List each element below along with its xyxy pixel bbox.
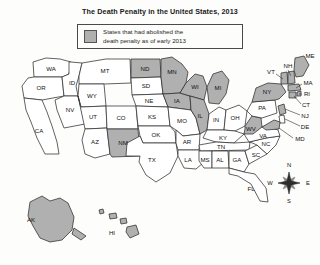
state-label-NC: NC [262, 140, 271, 147]
state-NH[interactable] [288, 71, 295, 84]
state-HI-2[interactable] [109, 213, 117, 219]
page-title: The Death Penalty in the United States, … [0, 7, 320, 16]
state-label-RI: RI [304, 90, 310, 97]
map-svg: WA OR CA ID NV MT WY UT AZ CO NM ND SD N… [0, 50, 320, 265]
state-NJ[interactable] [278, 104, 286, 115]
state-label-NE: NE [145, 97, 153, 104]
state-label-MN: MN [167, 68, 176, 75]
state-label-MA: MA [303, 79, 313, 86]
state-RI[interactable] [297, 91, 301, 96]
state-label-MO: MO [177, 117, 187, 124]
state-label-OK: OK [152, 131, 161, 138]
state-label-KY: KY [219, 134, 227, 141]
state-label-WI: WI [191, 83, 199, 90]
state-AK[interactable] [28, 196, 86, 242]
us-map: WA OR CA ID NV MT WY UT AZ CO NM ND SD N… [0, 50, 320, 265]
state-label-IL: IL [197, 112, 203, 119]
state-MA[interactable] [288, 84, 301, 91]
state-label-WY: WY [87, 92, 97, 99]
state-label-VA: VA [259, 132, 268, 139]
state-label-IN: IN [213, 116, 219, 123]
state-MD[interactable] [262, 120, 280, 130]
compass-rose: N S E W [267, 162, 310, 204]
state-label-NV: NV [66, 106, 75, 113]
state-label-PA: PA [258, 104, 267, 111]
state-label-LA: LA [184, 156, 192, 163]
legend-label-line1: States that had abolished the [103, 28, 186, 36]
state-label-NY: NY [263, 88, 271, 95]
legend-label-line2: death penalty as of early 2013 [103, 37, 186, 45]
state-label-HI: HI [109, 229, 115, 236]
leader-MD [279, 128, 293, 138]
state-label-TN: TN [217, 143, 225, 150]
state-label-TX: TX [148, 156, 156, 163]
legend-label: States that had abolished the death pena… [103, 28, 186, 44]
state-label-MD: MD [295, 135, 305, 142]
state-label-MT: MT [101, 67, 110, 74]
compass-label-north: N [287, 162, 291, 168]
state-label-SC: SC [252, 151, 261, 158]
leader-DE [285, 119, 300, 126]
state-label-CO: CO [116, 114, 125, 121]
state-label-AR: AR [183, 138, 192, 145]
state-label-UT: UT [89, 113, 97, 120]
state-label-AZ: AZ [91, 138, 99, 145]
state-HI-1[interactable] [99, 209, 104, 214]
state-label-ND: ND [141, 65, 150, 72]
state-label-MI: MI [215, 84, 222, 91]
state-label-WA: WA [46, 65, 57, 72]
state-label-AK: AK [27, 216, 35, 223]
state-label-NH: NH [284, 62, 293, 69]
state-label-CA: CA [35, 127, 44, 134]
state-label-AL: AL [216, 156, 224, 163]
state-label-OR: OR [36, 84, 46, 91]
state-label-CT: CT [302, 101, 310, 108]
leader-NJ [285, 109, 300, 115]
state-label-WV: WV [246, 125, 257, 132]
state-label-NM: NM [118, 139, 127, 146]
state-HI-4[interactable] [126, 225, 139, 238]
state-label-KS: KS [148, 113, 156, 120]
compass-label-west: W [267, 180, 273, 186]
state-label-ID: ID [69, 79, 76, 86]
leader-CT [294, 96, 301, 104]
state-label-DE: DE [301, 123, 309, 130]
state-label-NJ: NJ [301, 112, 308, 119]
state-label-IA: IA [174, 97, 181, 104]
state-label-OH: OH [230, 114, 239, 121]
state-label-GA: GA [233, 156, 243, 163]
state-label-FL: FL [247, 185, 255, 192]
state-HI-3[interactable] [120, 218, 127, 224]
state-ME[interactable] [294, 56, 309, 77]
state-label-VT: VT [267, 68, 275, 75]
legend-swatch-abolished [84, 30, 97, 43]
compass-label-south: S [287, 198, 291, 204]
legend: States that had abolished the death pena… [77, 24, 243, 49]
compass-label-east: E [306, 180, 310, 186]
state-label-SD: SD [142, 82, 151, 89]
state-label-ME: ME [305, 52, 314, 59]
state-label-MS: MS [200, 156, 209, 163]
